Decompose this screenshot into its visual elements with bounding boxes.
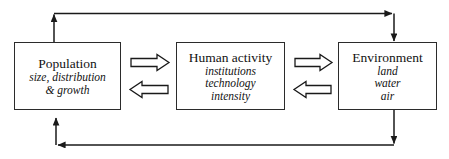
node-human-activity-subitem: technology bbox=[205, 77, 255, 90]
node-environment-subitems: land water air bbox=[374, 65, 400, 103]
node-human-activity[interactable]: Human activity institutions technology i… bbox=[176, 42, 285, 110]
top-feedback-loop bbox=[54, 14, 394, 43]
bottom-feedback-loop bbox=[56, 110, 394, 145]
diagram-canvas: Population size, distribution & growth H… bbox=[0, 0, 449, 159]
node-environment-title: Environment bbox=[352, 50, 423, 65]
node-population-title: Population bbox=[38, 56, 97, 71]
node-human-activity-subitems: institutions technology intensity bbox=[205, 65, 256, 103]
arrow-human-activity-to-environment bbox=[295, 55, 332, 71]
node-environment[interactable]: Environment land water air bbox=[338, 42, 437, 110]
node-population[interactable]: Population size, distribution & growth bbox=[14, 42, 121, 110]
node-human-activity-subitem: intensity bbox=[211, 90, 250, 103]
node-human-activity-subitem: institutions bbox=[205, 65, 256, 78]
arrow-human-activity-to-population bbox=[130, 82, 168, 98]
node-environment-subitem: air bbox=[381, 90, 394, 103]
node-population-subitems: size, distribution & growth bbox=[29, 71, 106, 96]
node-population-subitem: & growth bbox=[46, 84, 90, 97]
arrow-environment-to-human-activity bbox=[294, 82, 331, 98]
arrow-population-to-human-activity bbox=[131, 55, 169, 71]
node-population-subitem: size, distribution bbox=[29, 71, 106, 84]
node-environment-subitem: water bbox=[374, 77, 400, 90]
node-human-activity-title: Human activity bbox=[189, 50, 273, 65]
node-environment-subitem: land bbox=[377, 65, 397, 78]
